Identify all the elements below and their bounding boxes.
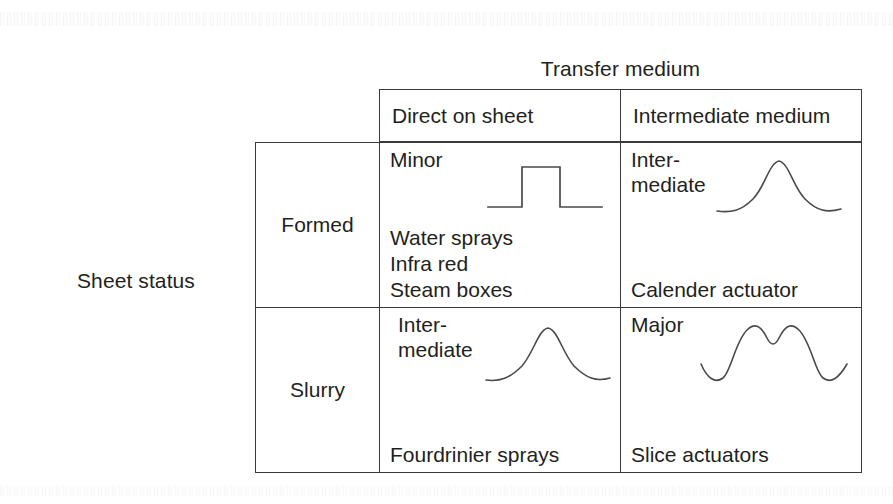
diagram-page: Transfer medium Sheet status Direct on s… [0, 0, 893, 504]
severity-label: Inter- mediate [398, 312, 473, 362]
actuator-list: Slice actuators [631, 442, 769, 468]
scan-artifact-band-top [0, 12, 893, 26]
actuator-list: Fourdrinier sprays [390, 442, 559, 468]
row-header-label: Formed [281, 213, 353, 237]
cell-formed-direct-on-sheet: Minor Water sprays Infra red Steam boxes [379, 142, 621, 308]
severity-label: Inter- mediate [631, 147, 706, 197]
actuator-list: Water sprays Infra red Steam boxes [390, 225, 513, 303]
actuator-list: Calender actuator [631, 277, 798, 303]
severity-label: Minor [390, 147, 443, 172]
gaussian-peak-waveform-icon [711, 153, 851, 223]
gaussian-peak-waveform-icon [480, 320, 618, 392]
square-pulse-waveform-icon [486, 155, 614, 217]
column-header-label: Intermediate medium [621, 104, 830, 128]
cell-formed-intermediate-medium: Inter- mediate Calender actuator [620, 142, 862, 308]
bimodal-peak-waveform-icon [697, 316, 857, 396]
scan-artifact-band-bottom [0, 486, 893, 496]
cell-slurry-intermediate-medium: Major Slice actuators [620, 307, 862, 473]
column-header-direct-on-sheet: Direct on sheet [379, 89, 621, 142]
column-header-label: Direct on sheet [380, 104, 533, 128]
row-header-formed: Formed [255, 142, 380, 308]
cell-slurry-direct-on-sheet: Inter- mediate Fourdrinier sprays [379, 307, 621, 473]
row-header-slurry: Slurry [255, 307, 380, 473]
column-header-intermediate-medium: Intermediate medium [620, 89, 862, 142]
severity-label: Major [631, 312, 684, 337]
row-header-label: Slurry [290, 378, 345, 402]
column-axis-title: Transfer medium [379, 56, 862, 82]
row-axis-title: Sheet status [24, 268, 248, 293]
